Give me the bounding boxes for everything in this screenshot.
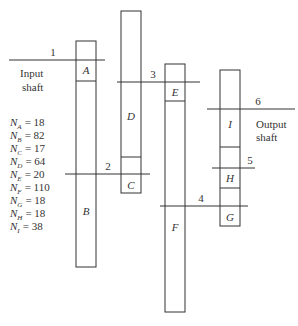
gear-label-c: C	[127, 179, 135, 191]
output-shaft-label-line2: shaft	[256, 131, 277, 143]
output-shaft-label-line1: Output	[256, 118, 287, 130]
shaft-number-4: 4	[198, 192, 204, 204]
tooth-count-list: NA= 18 NB= 82 NC= 17 ND= 64 NE= 20 NF= 1…	[9, 116, 50, 235]
gear-label-b: B	[83, 205, 90, 217]
gear-train-diagram: 1 2 3 4 5 6 A B C D E F G H I Input shaf…	[0, 0, 298, 326]
shaft-number-5: 5	[247, 154, 253, 166]
gear-label-a: A	[82, 64, 90, 76]
gear-label-d: D	[126, 110, 135, 122]
shaft-number-2: 2	[105, 160, 111, 172]
shaft-number-1: 1	[50, 46, 56, 58]
tooth-count-i: NI= 38	[9, 220, 43, 235]
gear-column-dc	[121, 11, 141, 193]
gear-label-g: G	[226, 211, 234, 223]
gear-column-ihg	[220, 70, 240, 226]
shaft-number-6: 6	[255, 95, 261, 107]
gear-label-e: E	[171, 86, 179, 98]
input-shaft-label-line2: shaft	[22, 81, 43, 93]
input-shaft-label-line1: Input	[20, 67, 43, 79]
gear-label-f: F	[171, 221, 179, 233]
gear-label-h: H	[225, 172, 235, 184]
shaft-number-3: 3	[150, 68, 156, 80]
